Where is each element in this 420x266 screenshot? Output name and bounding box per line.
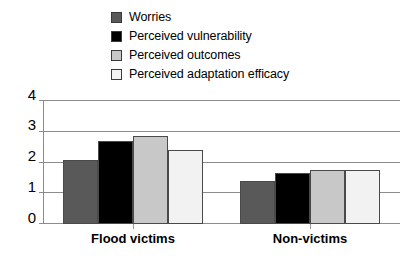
legend-item-perceived-vulnerability: Perceived vulnerability bbox=[111, 27, 371, 46]
bar bbox=[345, 170, 380, 224]
x-axis-group-label: Flood victims bbox=[91, 232, 175, 246]
y-tick-mark bbox=[39, 223, 43, 224]
y-tick-label: 3 bbox=[28, 117, 36, 132]
y-axis-line bbox=[43, 101, 44, 224]
y-tick-mark bbox=[39, 192, 43, 193]
legend-swatch-perceived-adaptation-efficacy bbox=[111, 69, 122, 80]
gridline bbox=[43, 131, 400, 132]
y-tick-label: 1 bbox=[28, 178, 36, 193]
group-tick bbox=[133, 224, 134, 229]
x-axis-group-label: Non-victims bbox=[273, 232, 347, 246]
bar bbox=[98, 141, 133, 224]
y-tick-mark bbox=[39, 162, 43, 163]
legend-swatch-perceived-vulnerability bbox=[111, 31, 122, 42]
legend-label-perceived-outcomes: Perceived outcomes bbox=[129, 49, 240, 62]
bar bbox=[63, 160, 98, 224]
bar bbox=[310, 170, 345, 224]
y-tick-mark bbox=[39, 131, 43, 132]
legend-swatch-perceived-outcomes bbox=[111, 50, 122, 61]
group-tick bbox=[310, 224, 311, 229]
legend-item-perceived-adaptation-efficacy: Perceived adaptation efficacy bbox=[111, 65, 371, 84]
plot-area: 01234 bbox=[43, 101, 400, 224]
legend-label-perceived-vulnerability: Perceived vulnerability bbox=[129, 30, 252, 43]
y-tick-label: 2 bbox=[28, 148, 36, 163]
legend-item-worries: Worries bbox=[111, 8, 371, 27]
bar bbox=[240, 181, 275, 224]
bar-chart-figure: Worries Perceived vulnerability Perceive… bbox=[0, 0, 420, 266]
bar bbox=[168, 150, 203, 224]
bar bbox=[275, 173, 310, 224]
legend-swatch-worries bbox=[111, 12, 122, 23]
legend-label-perceived-adaptation-efficacy: Perceived adaptation efficacy bbox=[129, 68, 289, 81]
y-tick-label: 0 bbox=[28, 209, 36, 224]
chart-legend: Worries Perceived vulnerability Perceive… bbox=[111, 8, 371, 84]
y-tick-mark bbox=[39, 100, 43, 101]
gridline bbox=[43, 100, 400, 101]
legend-item-perceived-outcomes: Perceived outcomes bbox=[111, 46, 371, 65]
y-tick-label: 4 bbox=[28, 86, 36, 101]
bar bbox=[133, 136, 168, 224]
legend-label-worries: Worries bbox=[129, 11, 171, 24]
